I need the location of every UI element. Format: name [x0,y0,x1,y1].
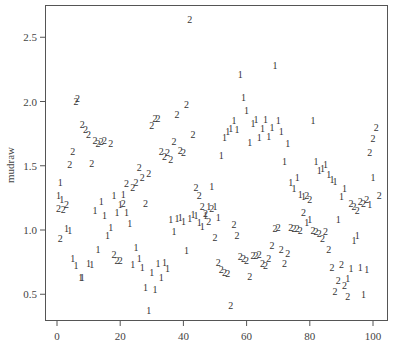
y-tick-label: 2.0 [23,96,37,108]
y-tick-label: 1.0 [23,224,37,236]
plot-frame [46,6,388,321]
x-axis: 020406080100 [54,321,382,343]
data-point-group-1: 1 [127,218,132,229]
data-point-group-2: 2 [298,225,303,236]
data-point-group-2: 2 [377,190,382,201]
data-point-group-2: 2 [64,199,69,210]
y-axis: 0.51.01.52.02.5 [23,31,45,300]
data-point-group-1: 1 [96,244,101,255]
data-point-group-2: 2 [197,190,202,201]
data-point-group-2: 2 [190,129,195,140]
data-point-group-2: 2 [282,258,287,269]
data-point-group-1: 1 [168,214,173,225]
data-point-group-1: 1 [89,259,94,270]
data-point-group-1: 1 [292,183,297,194]
data-point-group-2: 2 [171,136,176,147]
data-point-group-1: 1 [333,176,338,187]
data-point-group-1: 1 [92,205,97,216]
data-point-group-1: 1 [336,214,341,225]
data-point-group-2: 2 [336,275,341,286]
data-point-group-1: 1 [342,183,347,194]
data-point-group-2: 2 [86,129,91,140]
data-point-group-2: 2 [285,248,290,259]
data-point-group-2: 2 [206,216,211,227]
y-tick-label: 2.5 [23,31,37,43]
x-tick-label: 40 [178,330,190,342]
data-point-group-2: 2 [140,172,145,183]
data-point-group-2: 2 [333,286,338,297]
data-point-group-1: 1 [99,196,104,207]
data-point-group-1: 1 [295,172,300,183]
data-point-group-1: 1 [273,60,278,71]
data-point-group-1: 1 [285,138,290,149]
data-point-group-1: 1 [358,262,363,273]
data-point-group-2: 2 [108,138,113,149]
data-point-group-2: 2 [276,222,281,233]
y-tick-label: 1.5 [23,160,37,172]
data-point-group-2: 2 [213,232,218,243]
data-point-group-2: 2 [329,262,334,273]
data-point-group-2: 2 [247,271,252,282]
data-point-group-1: 1 [310,115,315,126]
data-point-group-2: 2 [225,268,230,279]
data-point-group-1: 1 [219,150,224,161]
data-point-group-1: 1 [244,105,249,116]
data-point-group-1: 1 [254,114,259,125]
data-point-group-2: 2 [228,300,233,311]
data-point-group-2: 2 [121,198,126,209]
data-point-group-1: 1 [165,263,170,274]
data-point-group-1: 1 [263,114,268,125]
y-axis-label: mudraw [4,147,16,183]
data-point-group-1: 1 [200,221,205,232]
data-point-group-2: 2 [146,168,151,179]
data-point-group-2: 2 [326,244,331,255]
data-point-group-2: 2 [269,240,274,251]
data-point-group-1: 1 [371,172,376,183]
data-point-group-2: 2 [364,194,369,205]
data-point-group-1: 1 [282,156,287,167]
data-point-group-1: 1 [159,272,164,283]
data-point-group-2: 2 [323,226,328,237]
data-point-group-2: 2 [209,203,214,214]
data-point-group-1: 1 [247,137,252,148]
data-point-group-2: 2 [102,135,107,146]
x-tick-label: 60 [241,330,253,342]
data-point-group-2: 2 [168,154,173,165]
data-point-group-2: 2 [75,93,80,104]
data-point-group-1: 1 [184,245,189,256]
data-point-group-2: 2 [307,194,312,205]
data-point-group-2: 2 [143,198,148,209]
data-point-group-1: 1 [102,210,107,221]
data-point-group-1: 1 [364,264,369,275]
x-tick-label: 100 [365,330,382,342]
data-point-group-1: 1 [355,230,360,241]
data-point-group-2: 2 [184,99,189,110]
data-points: 1111111111111111111111111111111111111111… [56,14,382,317]
data-point-group-1: 1 [108,222,113,233]
data-point-group-1: 1 [209,181,214,192]
data-point-group-1: 1 [58,177,63,188]
data-point-group-2: 2 [124,178,129,189]
data-point-group-1: 1 [269,122,274,133]
x-tick-label: 80 [304,330,316,342]
data-point-group-1: 1 [152,284,157,295]
data-point-group-1: 1 [171,226,176,237]
data-point-group-1: 1 [143,282,148,293]
data-point-group-1: 1 [216,212,221,223]
data-point-group-2: 2 [58,233,63,244]
data-point-group-2: 2 [67,159,72,170]
x-tick-label: 20 [115,330,127,342]
data-point-group-1: 1 [361,289,366,300]
data-point-group-1: 1 [149,267,154,278]
data-point-group-1: 1 [279,126,284,137]
data-point-group-1: 1 [156,258,161,269]
data-point-group-1: 1 [73,260,78,271]
data-point-group-2: 2 [367,147,372,158]
data-point-group-2: 2 [156,113,161,124]
data-point-group-2: 2 [266,253,271,264]
x-tick-label: 0 [54,330,60,342]
data-point-group-2: 2 [342,280,347,291]
data-point-group-1: 1 [67,225,72,236]
data-point-group-2: 2 [279,244,284,255]
data-point-group-1: 1 [181,216,186,227]
